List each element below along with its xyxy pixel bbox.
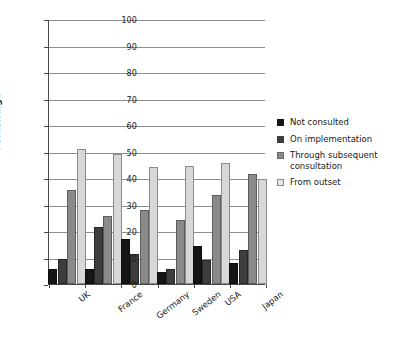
- x-axis-category-label: UK: [77, 289, 92, 304]
- legend-item[interactable]: Not consulted: [277, 117, 402, 128]
- legend-item[interactable]: On implementation: [277, 134, 402, 145]
- y-axis-tick-label: 20: [97, 228, 137, 237]
- y-axis-tick-label: 70: [97, 95, 137, 104]
- x-axis-category-label: Germany: [155, 289, 192, 321]
- bar: [140, 210, 149, 284]
- legend-swatch-icon: [277, 179, 284, 186]
- y-axis-tick: [44, 73, 48, 74]
- x-axis-category-label: Sweden: [190, 289, 223, 318]
- y-axis-tick: [44, 179, 48, 180]
- y-axis-tick-label: 40: [97, 175, 137, 184]
- bar-group: [230, 20, 266, 284]
- legend-item[interactable]: From outset: [277, 177, 402, 188]
- y-axis-tick-label: 60: [97, 122, 137, 131]
- y-axis-tick: [44, 206, 48, 207]
- bar: [176, 220, 185, 284]
- legend-swatch-icon: [277, 119, 284, 126]
- x-axis-category-label: France: [116, 289, 144, 314]
- x-axis-category-label: USA: [222, 289, 242, 308]
- y-axis-tick-label: 30: [97, 201, 137, 210]
- y-axis-tick: [44, 126, 48, 127]
- legend-swatch-icon: [277, 136, 284, 143]
- x-axis-tick: [85, 284, 86, 288]
- x-axis-tick: [230, 284, 231, 288]
- bar: [85, 269, 94, 284]
- y-axis-tick: [44, 100, 48, 101]
- bar: [212, 195, 221, 284]
- y-axis-tick-label: 50: [97, 148, 137, 157]
- plot-area: [48, 20, 265, 285]
- bar-group: [194, 20, 230, 284]
- y-axis-tick-label: 0: [97, 281, 137, 290]
- legend-swatch-icon: [277, 152, 284, 159]
- bar: [67, 190, 76, 284]
- bar: [48, 269, 57, 284]
- y-axis-tick-label: 100: [97, 16, 137, 25]
- y-axis-tick: [44, 153, 48, 154]
- x-axis-category-label: Japan: [260, 289, 285, 311]
- x-axis-tick: [194, 284, 195, 288]
- x-axis-tick: [49, 284, 50, 288]
- bar: [166, 269, 175, 284]
- bar: [157, 272, 166, 284]
- y-axis-tick: [44, 47, 48, 48]
- bar-group: [158, 20, 194, 284]
- legend-label: Not consulted: [290, 117, 349, 128]
- chart-legend: Not consultedOn implementationThrough su…: [277, 117, 402, 194]
- legend-label: Through subsequent consultation: [290, 150, 402, 171]
- legend-label: From outset: [290, 177, 341, 188]
- bar-group: [49, 20, 85, 284]
- bar: [239, 250, 248, 284]
- x-axis-tick: [266, 284, 267, 288]
- bar-chart: Percentage Not consultedOn implementatio…: [0, 0, 406, 341]
- bar: [258, 179, 267, 284]
- y-axis-tick: [44, 232, 48, 233]
- y-axis-tick-label: 90: [97, 42, 137, 51]
- bar: [248, 174, 257, 284]
- legend-label: On implementation: [290, 134, 372, 145]
- y-axis-title: Percentage: [0, 92, 2, 150]
- x-axis-tick: [158, 284, 159, 288]
- y-axis-tick-label: 10: [97, 254, 137, 263]
- bar: [58, 259, 67, 284]
- y-axis-tick-label: 80: [97, 69, 137, 78]
- bar: [202, 260, 211, 284]
- bar: [193, 246, 202, 284]
- y-axis-tick: [44, 20, 48, 21]
- y-axis-tick: [44, 259, 48, 260]
- bar: [229, 263, 238, 284]
- legend-item[interactable]: Through subsequent consultation: [277, 150, 402, 171]
- y-axis-tick: [44, 285, 48, 286]
